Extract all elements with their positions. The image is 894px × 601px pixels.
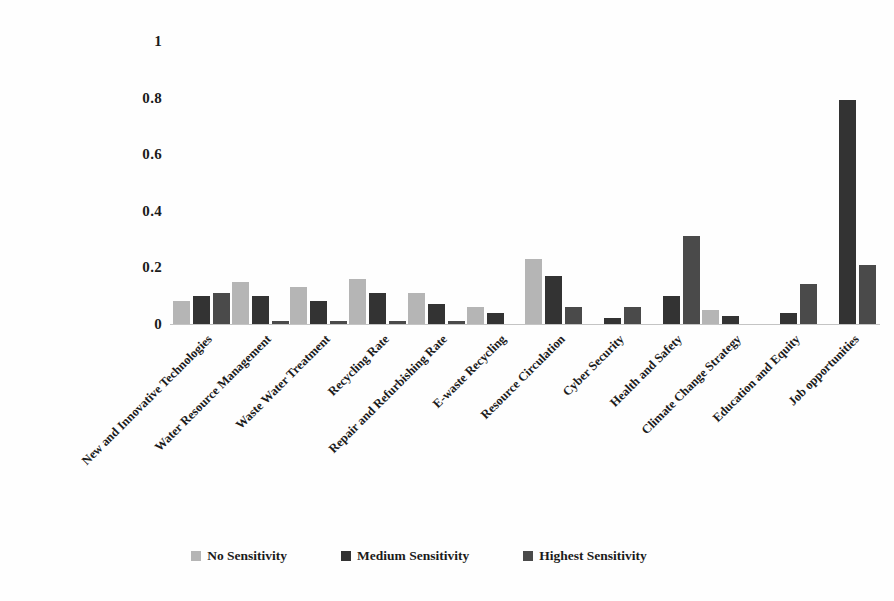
- bar-no-sensitivity: [408, 293, 425, 324]
- bar-no-sensitivity: [232, 282, 249, 324]
- bar-highest-sensitivity: [624, 307, 641, 324]
- legend-item: Medium Sensitivity: [341, 548, 469, 564]
- y-axis-tick-label: 0.4: [104, 202, 162, 220]
- legend-swatch-icon: [523, 551, 533, 561]
- bar-medium-sensitivity: [839, 100, 856, 324]
- bar-highest-sensitivity: [389, 321, 406, 324]
- bar-no-sensitivity: [290, 287, 307, 324]
- bar-medium-sensitivity: [310, 301, 327, 324]
- bar-medium-sensitivity: [604, 318, 621, 324]
- bar-medium-sensitivity: [252, 296, 269, 324]
- legend-label: No Sensitivity: [207, 548, 287, 564]
- x-axis-category-label: New and Innovative Technologies: [14, 332, 215, 533]
- bar-highest-sensitivity: [330, 321, 347, 324]
- bar-medium-sensitivity: [487, 313, 504, 324]
- bar-medium-sensitivity: [428, 304, 445, 324]
- bar-highest-sensitivity: [683, 236, 700, 324]
- bar-medium-sensitivity: [193, 296, 210, 324]
- bar-no-sensitivity: [702, 310, 719, 324]
- legend-label: Highest Sensitivity: [539, 548, 647, 564]
- bar-no-sensitivity: [349, 279, 366, 324]
- bar-medium-sensitivity: [369, 293, 386, 324]
- legend-item: Highest Sensitivity: [523, 548, 647, 564]
- legend: No SensitivityMedium SensitivityHighest …: [0, 548, 866, 564]
- bar-no-sensitivity: [173, 301, 190, 324]
- bar-no-sensitivity: [525, 259, 542, 324]
- bar-highest-sensitivity: [800, 284, 817, 324]
- bar-highest-sensitivity: [859, 265, 876, 324]
- bar-medium-sensitivity: [722, 316, 739, 324]
- legend-swatch-icon: [341, 551, 351, 561]
- y-axis-tick-label: 0: [104, 315, 162, 333]
- y-axis-tick-label: 0.2: [104, 258, 162, 276]
- bar-highest-sensitivity: [272, 321, 289, 324]
- legend-item: No Sensitivity: [191, 548, 287, 564]
- bar-medium-sensitivity: [663, 296, 680, 324]
- bar-chart: 10.80.60.40.20 New and Innovative Techno…: [0, 0, 894, 601]
- bar-highest-sensitivity: [448, 321, 465, 324]
- y-axis-tick-label: 0.6: [104, 145, 162, 163]
- plot-area: 10.80.60.40.20 New and Innovative Techno…: [0, 0, 894, 601]
- bar-no-sensitivity: [467, 307, 484, 324]
- bar-medium-sensitivity: [545, 276, 562, 324]
- bar-medium-sensitivity: [780, 313, 797, 324]
- y-axis-tick-label: 0.8: [104, 89, 162, 107]
- y-axis-tick-label: 1: [104, 32, 162, 50]
- x-axis-category-label: Health and Safety: [484, 332, 685, 533]
- bar-highest-sensitivity: [565, 307, 582, 324]
- x-axis-category-label: Repair and Refurbishing Rate: [249, 332, 450, 533]
- legend-swatch-icon: [191, 551, 201, 561]
- x-axis-line: [170, 324, 880, 325]
- bar-highest-sensitivity: [213, 293, 230, 324]
- legend-label: Medium Sensitivity: [357, 548, 469, 564]
